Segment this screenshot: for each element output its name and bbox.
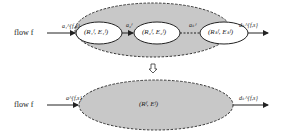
top-flow-label: flow f [14,29,33,37]
bottom-in-edge-label: a^{f,s} [66,95,82,101]
node-k-label: (Rₖᶠ, Eₖᶠ) [208,29,233,36]
edge-1-2-label: a₂ᶠ [126,22,132,28]
bottom-out-edge-label: dₖ^{f,s} [239,95,258,101]
edge-2-k-label: aₖᶠ [189,22,196,28]
bottom-node-label: (Rᶠ, Eᶠ) [139,101,158,108]
top-out-edge-label: dₖ^{f,s} [239,22,258,28]
bottom-flow-label: flow f [14,101,33,109]
top-in-edge-label: a₁^{f,s} [62,23,80,29]
node-1-label: (R₁ᶠ, E₁ᶠ) [84,29,108,36]
node-2-label: (R₂ᶠ, E₂ᶠ) [142,29,166,36]
diagram-canvas [0,0,285,138]
transform-arrow-icon [149,64,157,73]
